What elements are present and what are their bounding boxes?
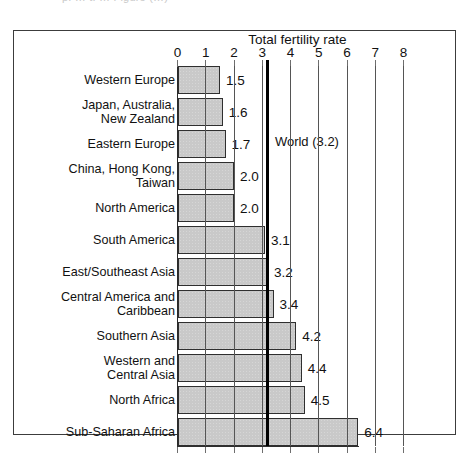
x-tick-label-3: 3 xyxy=(252,45,272,60)
bar-row: Sub-Saharan Africa6.4 xyxy=(0,418,472,446)
category-label: Western Europe xyxy=(84,66,175,94)
bar-row: Western and Central Asia4.4 xyxy=(0,354,472,382)
x-tick-label-4: 4 xyxy=(281,45,301,60)
category-label: East/Southeast Asia xyxy=(62,258,175,286)
bar-row: Southern Asia4.2 xyxy=(0,322,472,350)
bar xyxy=(178,290,274,318)
bar xyxy=(178,194,235,222)
bar-value-label: 4.2 xyxy=(302,322,321,350)
bar xyxy=(178,354,302,382)
bar-value-label: 1.7 xyxy=(232,130,251,158)
bar xyxy=(178,162,235,190)
tick-stub-bottom-5 xyxy=(318,447,319,453)
bar-value-label: 1.5 xyxy=(226,66,245,94)
x-tick-label-5: 5 xyxy=(309,45,329,60)
bar-row: Central America and Caribbean3.4 xyxy=(0,290,472,318)
bar-row: China, Hong Kong, Taiwan2.0 xyxy=(0,162,472,190)
bar xyxy=(178,130,226,158)
bar-value-label: 4.4 xyxy=(308,354,327,382)
x-tick-label-0: 0 xyxy=(168,45,188,60)
category-label: Sub-Saharan Africa xyxy=(66,418,175,446)
tick-stub-bottom-1 xyxy=(205,447,206,453)
world-reference-line xyxy=(266,60,269,446)
x-tick-label-8: 8 xyxy=(394,45,414,60)
bar-row: Western Europe1.5 xyxy=(0,66,472,94)
bar-value-label: 2.0 xyxy=(240,162,259,190)
bar-row: Eastern Europe1.7 xyxy=(0,130,472,158)
bar-value-label: 4.5 xyxy=(311,386,330,414)
tick-stub-bottom-7 xyxy=(375,447,376,453)
world-reference-label: World (3.2) xyxy=(275,134,339,149)
chart-plot-area: Total fertility rate 012345678 Western E… xyxy=(0,0,472,457)
bar xyxy=(178,322,297,350)
tick-stub-bottom-0 xyxy=(177,447,178,453)
x-tick-label-2: 2 xyxy=(224,45,244,60)
category-label: Southern Asia xyxy=(97,322,175,350)
bar-value-label: 2.0 xyxy=(240,194,259,222)
category-label: Western and Central Asia xyxy=(104,354,175,382)
bar-value-label: 1.6 xyxy=(229,98,248,126)
category-label: Central America and Caribbean xyxy=(61,290,175,318)
bar-row: East/Southeast Asia3.2 xyxy=(0,258,472,286)
category-label: North Africa xyxy=(109,386,175,414)
x-tick-label-1: 1 xyxy=(196,45,216,60)
bar xyxy=(178,386,305,414)
category-label: Japan, Australia, New Zealand xyxy=(82,98,175,126)
bar-row: Japan, Australia, New Zealand1.6 xyxy=(0,98,472,126)
bar xyxy=(178,226,266,254)
category-label: Eastern Europe xyxy=(87,130,175,158)
bar-value-label: 6.4 xyxy=(364,418,383,446)
tick-stub-bottom-6 xyxy=(347,447,348,453)
x-axis-baseline xyxy=(177,446,360,447)
category-label: South America xyxy=(93,226,175,254)
bar xyxy=(178,66,220,94)
category-label: China, Hong Kong, Taiwan xyxy=(69,162,175,190)
x-tick-label-6: 6 xyxy=(337,45,357,60)
tick-stub-bottom-3 xyxy=(262,447,263,453)
bar xyxy=(178,98,223,126)
tick-stub-bottom-4 xyxy=(290,447,291,453)
bar-row: North America2.0 xyxy=(0,194,472,222)
bar-value-label: 3.2 xyxy=(274,258,293,286)
bar-value-label: 3.4 xyxy=(280,290,299,318)
tick-stub-bottom-8 xyxy=(403,447,404,453)
bar xyxy=(178,258,268,286)
bar-row: South America3.1 xyxy=(0,226,472,254)
x-tick-label-7: 7 xyxy=(365,45,385,60)
bar-value-label: 3.1 xyxy=(271,226,290,254)
category-label: North America xyxy=(95,194,175,222)
bar-row: North Africa4.5 xyxy=(0,386,472,414)
figure-root: p. … t. … Figure (…) Total fertility rat… xyxy=(0,0,472,457)
tick-stub-bottom-2 xyxy=(234,447,235,453)
